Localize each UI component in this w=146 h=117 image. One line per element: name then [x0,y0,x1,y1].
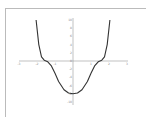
y-tick-label: 10 [68,18,72,22]
y-tick-label: 2 [70,51,72,55]
x-tick-label: 2 [108,62,110,66]
y-tick-label: 6 [70,34,72,38]
x-tick-label: -1 [54,62,57,66]
x-tick-label: 1 [90,62,92,66]
y-tick-label: -6 [69,84,72,88]
y-tick-label: 4 [70,43,72,47]
x-tick-label: -3 [18,62,21,66]
y-tick-label: -4 [69,75,72,79]
x-tick-label: -2 [36,62,39,66]
y-tick-label: 8 [70,26,72,30]
y-tick-label: -2 [69,67,72,71]
y-tick-label: -10 [67,100,72,104]
function-plot: -3-2-1123 1086420-2-4-6-8-10 [0,0,146,117]
y-tick-label: 0 [70,59,72,63]
x-tick-label: 3 [126,62,128,66]
